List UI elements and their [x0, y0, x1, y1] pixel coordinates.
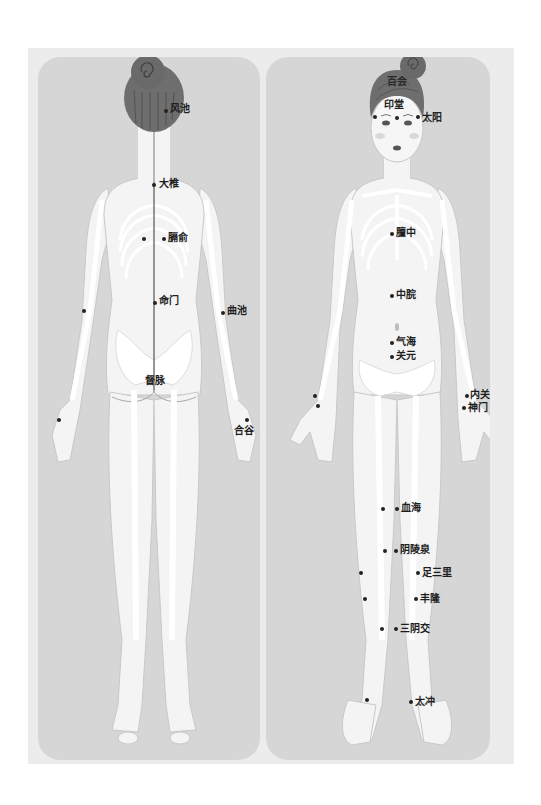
point-dot-geshu[interactable] [162, 237, 166, 241]
point-dot-fenglong-left[interactable] [363, 597, 367, 601]
point-dot-fengchi[interactable] [164, 109, 168, 113]
point-label-zhongwan: 中脘 [396, 290, 416, 300]
point-label-mingmen: 命门 [159, 296, 179, 306]
point-label-yintang: 印堂 [384, 100, 404, 110]
point-dot-taiyang[interactable] [416, 115, 420, 119]
point-label-xuehai: 血海 [401, 503, 421, 513]
point-label-geshu: 膈俞 [168, 233, 188, 243]
front-view-panel [266, 57, 490, 760]
point-label-fengchi: 风池 [170, 104, 190, 114]
point-dot-quchi[interactable] [221, 311, 225, 315]
front-body-figure [266, 57, 490, 760]
point-label-yinlingquan: 阴陵泉 [400, 545, 430, 555]
point-dot-guanyuan[interactable] [390, 355, 394, 359]
point-label-hegu: 合谷 [234, 426, 254, 436]
point-dot-zusanli[interactable] [416, 571, 420, 575]
point-dot-sanyinjiao-left[interactable] [380, 627, 384, 631]
point-dot-fenglong[interactable] [414, 597, 418, 601]
point-label-zusanli: 足三里 [422, 568, 452, 578]
point-label-guanyuan: 关元 [396, 351, 416, 361]
point-dot-quchi-left[interactable] [82, 309, 86, 313]
point-label-shenmen: 神门 [468, 403, 488, 413]
point-dot-xuehai[interactable] [395, 507, 399, 511]
point-dot-yinlingquan-left[interactable] [383, 549, 387, 553]
point-dot-neiguan[interactable] [465, 394, 469, 398]
point-dot-zusanli-left[interactable] [359, 571, 363, 575]
point-dot-zhongwan[interactable] [390, 294, 394, 298]
point-dot-yinlingquan[interactable] [394, 549, 398, 553]
point-label-neiguan: 内关 [470, 390, 490, 400]
point-dot-hegu[interactable] [245, 418, 249, 422]
point-dot-taichong-left[interactable] [365, 698, 369, 702]
point-dot-sanyinjiao[interactable] [394, 627, 398, 631]
point-dot-shenmen[interactable] [462, 406, 466, 410]
point-label-taiyang: 太阳 [422, 113, 442, 123]
point-dot-mingmen[interactable] [153, 301, 157, 305]
point-label-taichong: 太冲 [415, 697, 435, 707]
point-dot-shenmen-left[interactable] [316, 404, 320, 408]
point-dot-yintang[interactable] [395, 116, 399, 120]
point-label-dazhui: 大椎 [159, 179, 179, 189]
point-label-baihui: 百会 [387, 77, 407, 87]
point-label-sanyinjiao: 三阴交 [400, 624, 430, 634]
point-dot-geshu-left[interactable] [142, 237, 146, 241]
point-label-qihai: 气海 [396, 337, 416, 347]
back-body-figure [38, 57, 260, 760]
point-dot-hegu-left[interactable] [57, 418, 61, 422]
point-label-quchi: 曲池 [227, 306, 247, 316]
point-dot-danzhong[interactable] [390, 232, 394, 236]
point-dot-xuehai-left[interactable] [381, 507, 385, 511]
point-dot-neiguan-left[interactable] [313, 394, 317, 398]
point-dot-taiyang-left[interactable] [373, 115, 377, 119]
point-dot-dazhui[interactable] [152, 183, 156, 187]
meridian-label-du: 督脉 [145, 376, 165, 386]
point-label-fenglong: 丰隆 [420, 594, 440, 604]
point-dot-taichong[interactable] [409, 700, 413, 704]
point-label-danzhong: 膻中 [396, 228, 416, 238]
back-view-panel [38, 57, 260, 760]
point-dot-qihai[interactable] [390, 341, 394, 345]
